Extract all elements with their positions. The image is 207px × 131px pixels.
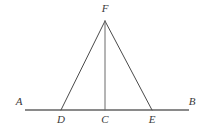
vertex-label-f: F [102, 3, 109, 14]
vertex-label-c: C [101, 114, 108, 125]
segment-fe-right-side [105, 21, 152, 110]
vertex-label-a: A [16, 96, 23, 107]
vertex-label-e: E [149, 114, 156, 125]
geometry-canvas [0, 0, 207, 131]
vertex-label-d: D [57, 114, 65, 125]
geometry-figure: F A D C E B [0, 0, 207, 131]
vertex-label-b: B [189, 96, 196, 107]
segment-df-left-side [61, 21, 105, 110]
